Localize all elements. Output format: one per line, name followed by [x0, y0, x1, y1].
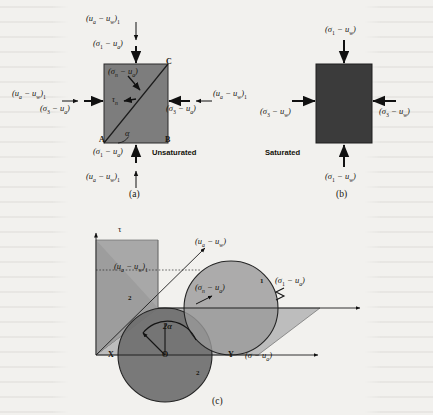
label-point-o: O — [162, 351, 168, 359]
label-normal-axis-c: (σ − ua) — [245, 351, 272, 362]
label-suction-level-c: (ua − uw)1 — [114, 262, 148, 273]
label-pole-point: 2 — [128, 295, 132, 302]
label-alpha-angle: α — [125, 129, 129, 138]
label-unsaturated: Unsaturated — [152, 148, 196, 157]
caption-b: (b) — [336, 189, 347, 199]
label-sigma-n-circle-c: (σn − ua) — [195, 283, 225, 294]
label-left-normal-b: (σ3 − uw) — [260, 107, 291, 118]
label-left-suction-a: (ua − uw)1 — [12, 89, 46, 100]
label-right-normal-b: (σ3 − uw) — [379, 107, 410, 118]
label-point-y: Y — [228, 351, 234, 359]
label-corner-c: C — [166, 58, 172, 66]
label-corner-b: B — [165, 136, 170, 144]
label-top-normal-b: (σ1 − uw) — [325, 25, 356, 36]
label-left-normal-a: (σ3 − ua) — [40, 104, 70, 115]
label-bottom-suction-a: (ua − uw)1 — [86, 172, 120, 183]
label-bottom-normal-b: (σ1 − uw) — [325, 172, 356, 183]
label-right-normal-a: (σ3 − ua) — [166, 104, 196, 115]
label-bottom-normal-a: (σ1 − ua) — [93, 147, 123, 158]
saturated-soil-element-box — [316, 64, 372, 143]
label-point-x: X — [108, 351, 114, 359]
panel-a-b-graphics — [0, 0, 433, 205]
label-two-alpha: 2α — [163, 322, 172, 331]
panel-c-graphics — [0, 200, 433, 415]
label-circle-back-id: 1 — [260, 278, 264, 285]
label-corner-a: A — [99, 136, 105, 144]
caption-a: (a) — [129, 189, 140, 199]
label-saturated: Saturated — [265, 148, 300, 157]
label-right-suction-a: (ua − uw)1 — [213, 89, 247, 100]
label-suction-axis-c: (ua − uw) — [195, 237, 226, 248]
label-top-suction-a: (ua − uw)1 — [86, 14, 120, 25]
label-plane-shear-stress: τn — [112, 96, 118, 106]
label-sigma1-c: (σ1 − ua) — [275, 276, 305, 287]
label-circle-front-id: 2 — [196, 370, 200, 377]
caption-c: (c) — [212, 396, 223, 406]
label-tau-axis: τ — [118, 225, 121, 234]
label-top-normal-a: (σ1 − ua) — [93, 39, 123, 50]
label-plane-normal-stress: (σn − ua) — [108, 67, 138, 78]
